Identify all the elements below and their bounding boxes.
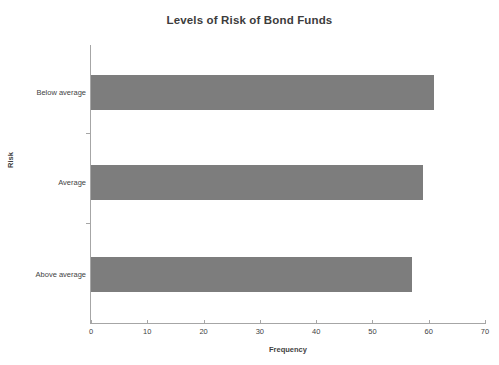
y-axis-tick-mark [86, 223, 90, 224]
x-axis-tick-mark [204, 320, 205, 324]
x-axis-tick-label: 50 [352, 327, 392, 336]
bar [91, 75, 434, 110]
x-axis-tick-label: 30 [240, 327, 280, 336]
bar-chart: Levels of Risk of Bond Funds Risk Below … [0, 0, 499, 365]
x-axis-tick-label: 20 [184, 327, 224, 336]
x-axis-tick-label: 40 [296, 327, 336, 336]
x-axis-tick-mark [485, 320, 486, 324]
y-axis-tick-mark [86, 133, 90, 134]
y-axis-category-label: Below average [2, 88, 86, 97]
x-axis-tick-mark [429, 320, 430, 324]
bar [91, 165, 423, 200]
plot-area [91, 45, 485, 323]
x-axis-tick-label: 60 [409, 327, 449, 336]
x-axis-tick-label: 70 [465, 327, 499, 336]
y-axis-category-labels: Below averageAverageAbove average [0, 0, 86, 365]
y-axis-category-label: Above average [2, 270, 86, 279]
x-axis-tick-mark [91, 320, 92, 324]
x-axis-line [91, 323, 486, 324]
bar [91, 257, 412, 292]
x-axis-tick-label: 0 [71, 327, 111, 336]
y-axis-category-label: Average [2, 178, 86, 187]
x-axis-tick-label: 10 [127, 327, 167, 336]
x-axis-tick-mark [316, 320, 317, 324]
x-axis-tick-mark [372, 320, 373, 324]
x-axis-tick-mark [147, 320, 148, 324]
x-axis-title: Frequency [91, 345, 485, 354]
x-axis-tick-mark [260, 320, 261, 324]
